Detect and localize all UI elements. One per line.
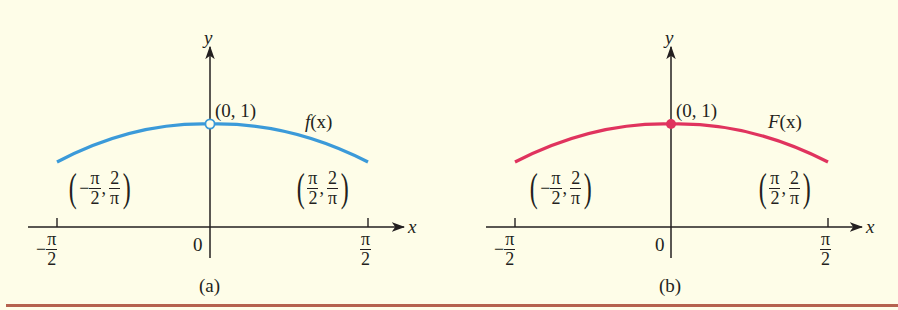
tick-label-right-b: π2 <box>820 230 831 269</box>
peak-label-a: (0, 1) <box>215 101 256 120</box>
bottom-rule <box>6 304 898 307</box>
right-point-label-b: ( π2 , 2π ) <box>756 168 813 208</box>
tick-label-left-b: − π2 <box>494 230 515 269</box>
x-axis-label-b: x <box>866 217 874 236</box>
left-point-label-b: ( − π2 , 2π ) <box>527 168 595 208</box>
filled-dot-marker <box>666 119 676 129</box>
left-point-label-a: ( − π2 , 2π ) <box>66 168 134 208</box>
caption-a: (a) <box>199 276 220 295</box>
graphs-svg <box>0 0 898 310</box>
x-axis-label-a: x <box>408 217 416 236</box>
y-axis-label-b: y <box>665 28 673 47</box>
origin-label-b: 0 <box>655 235 665 254</box>
function-label-F: F(x) <box>768 112 802 131</box>
tick-label-right-a: π2 <box>360 230 371 269</box>
right-point-label-a: ( π2 , 2π ) <box>294 168 351 208</box>
figure: y x 0 (0, 1) f(x) (a) ( − π2 , 2π ) ( π2… <box>0 0 898 310</box>
function-label-f: f(x) <box>305 112 332 131</box>
open-circle-marker <box>205 119 214 128</box>
origin-label-a: 0 <box>193 235 203 254</box>
y-axis-label-a: y <box>204 28 212 47</box>
peak-label-b: (0, 1) <box>676 101 717 120</box>
tick-label-left-a: − π2 <box>36 230 57 269</box>
caption-b: (b) <box>659 276 681 295</box>
